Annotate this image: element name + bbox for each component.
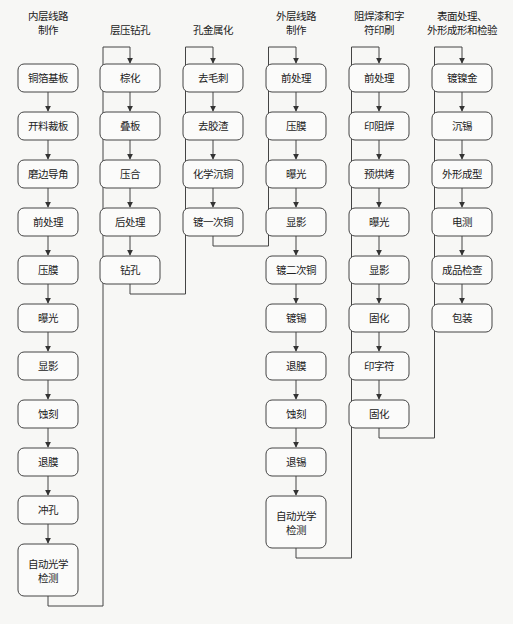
process-step: 蚀刻 [18,400,78,428]
step-box [18,544,78,596]
step-box [266,496,326,548]
step-label: 开料裁板 [28,120,69,132]
column-title: 孔金属化 [193,24,234,36]
process-step: 化学沉铜 [183,160,243,188]
step-label: 成品检查 [442,264,483,276]
step-label: 退锡 [286,456,306,468]
step-label: 化学沉铜 [193,168,233,180]
step-label: 曝光 [38,312,59,324]
process-step: 自动光学检测 [18,544,78,596]
step-label: 前处理 [281,72,312,84]
process-step: 退锡 [266,448,326,476]
process-step: 镀镍金 [432,64,492,92]
step-label: 曝光 [369,216,390,228]
step-label: 冲孔 [38,504,59,516]
step-label: 自动光学 [276,510,316,522]
process-step: 镀二次铜 [266,256,326,284]
step-label: 棕化 [120,72,141,84]
step-label: 去毛刺 [198,72,228,84]
process-step: 叠板 [100,112,160,140]
process-step: 电测 [432,208,492,236]
process-step: 蚀刻 [266,400,326,428]
step-label: 镀镍金 [447,72,478,84]
step-label: 镀二次铜 [276,264,316,276]
process-step: 镀一次铜 [183,208,243,236]
step-label: 电测 [452,216,472,228]
step-label: 检测 [286,524,306,536]
step-label: 退膜 [38,456,59,468]
step-label: 压合 [120,168,141,180]
step-label: 固化 [369,408,390,420]
step-label: 显影 [286,216,307,228]
process-step: 前处理 [349,64,409,92]
column-title: 制作 [286,24,307,36]
step-label: 预烘烤 [364,168,395,180]
process-step: 退膜 [266,352,326,380]
process-step: 铜箔基板 [18,64,78,92]
pcb-process-flowchart: 内层线路制作层压钻孔孔金属化外层线路制作阻焊漆和字符印刷表面处理、外形成形和检验… [0,0,513,624]
process-step: 预烘烤 [349,160,409,188]
process-step: 沉锡 [432,112,492,140]
step-label: 沉锡 [452,120,472,132]
step-label: 铜箔基板 [28,72,69,84]
process-step: 镀锡 [266,304,326,332]
step-label: 退膜 [286,360,307,372]
process-step: 压膜 [266,112,326,140]
column-title: 表面处理、 [437,10,487,22]
step-label: 叠板 [120,120,141,132]
step-label: 钻孔 [120,264,141,276]
step-label: 固化 [369,312,390,324]
process-step: 压合 [100,160,160,188]
process-step: 显影 [18,352,78,380]
column-title: 制作 [38,24,59,36]
process-step: 固化 [349,304,409,332]
process-step: 外形成型 [432,160,492,188]
step-label: 压膜 [38,264,59,276]
column-title: 外层线路 [276,10,317,22]
process-step: 固化 [349,400,409,428]
process-step: 包装 [432,304,492,332]
process-step: 印阻焊 [349,112,409,140]
step-label: 外形成型 [442,168,482,180]
column-title: 外形成形和检验 [427,24,498,36]
step-label: 前处理 [33,216,64,228]
step-label: 曝光 [286,168,307,180]
process-step: 自动光学检测 [266,496,326,548]
step-label: 包装 [452,312,473,324]
step-label: 印阻焊 [364,120,395,132]
process-step: 曝光 [266,160,326,188]
step-label: 后处理 [115,216,146,228]
process-step: 印字符 [349,352,409,380]
process-step: 冲孔 [18,496,78,524]
process-step: 显影 [349,256,409,284]
step-label: 印字符 [364,360,394,372]
step-label: 检测 [38,572,58,584]
process-step: 前处理 [266,64,326,92]
process-step: 前处理 [18,208,78,236]
step-label: 前处理 [364,72,395,84]
step-label: 显影 [38,360,59,372]
process-step: 曝光 [18,304,78,332]
step-label: 自动光学 [28,558,68,570]
step-label: 压膜 [286,120,307,132]
column-title: 层压钻孔 [110,24,151,36]
column-title: 内层线路 [28,10,69,22]
process-step: 退膜 [18,448,78,476]
process-step: 显影 [266,208,326,236]
process-step: 磨边导角 [18,160,78,188]
step-label: 蚀刻 [38,408,58,420]
step-label: 显影 [369,264,390,276]
process-step: 压膜 [18,256,78,284]
step-label: 去胶渣 [198,120,229,132]
process-step: 去毛刺 [183,64,243,92]
process-step: 开料裁板 [18,112,78,140]
column-title: 阻焊漆和字 [354,10,404,22]
step-label: 镀一次铜 [193,216,233,228]
process-step: 曝光 [349,208,409,236]
process-step: 钻孔 [100,256,160,284]
step-label: 蚀刻 [286,408,306,420]
process-step: 后处理 [100,208,160,236]
column-title: 符印刷 [364,24,394,36]
step-label: 镀锡 [286,312,306,324]
process-step: 成品检查 [432,256,492,284]
